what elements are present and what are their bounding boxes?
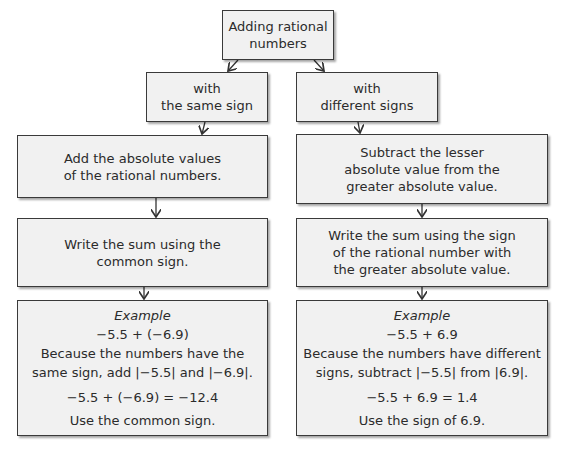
example-result: −5.5 + (−6.9) = −12.4	[67, 388, 218, 407]
step-line: Add the absolute values	[64, 150, 221, 167]
example-title: Example	[114, 306, 170, 325]
step-line: greater absolute value.	[346, 178, 498, 195]
step-line: of the rational number with	[333, 244, 512, 261]
example-explain: Because the numbers have the	[41, 344, 245, 363]
right-example-box: Example −5.5 + 6.9 Because the numbers h…	[296, 300, 548, 436]
step-line: the greater absolute value.	[334, 261, 511, 278]
branch-line: with	[193, 80, 221, 97]
step-line: Write the sum using the	[64, 236, 220, 253]
step-line: common sign.	[97, 253, 189, 270]
left-example-box: Example −5.5 + (−6.9) Because the number…	[17, 300, 268, 436]
example-note: Use the common sign.	[70, 411, 216, 430]
right-step2-box: Write the sum using the sign of the rati…	[296, 218, 548, 287]
step-line: Write the sum using the sign	[328, 227, 515, 244]
example-result: −5.5 + 6.9 = 1.4	[366, 388, 477, 407]
example-explain: same sign, add |−5.5| and |−6.9|.	[32, 363, 253, 382]
branch-line: the same sign	[161, 97, 253, 114]
root-line-2: numbers	[249, 35, 307, 52]
root-box: Adding rational numbers	[222, 10, 334, 60]
left-step1-box: Add the absolute values of the rational …	[17, 135, 268, 198]
branch-line: with	[353, 80, 381, 97]
example-explain: signs, subtract |−5.5| from |6.9|.	[316, 363, 528, 382]
example-explain: Because the numbers have different	[303, 344, 541, 363]
example-note: Use the sign of 6.9.	[359, 411, 485, 430]
step-line: Subtract the lesser	[360, 144, 484, 161]
example-title: Example	[394, 306, 450, 325]
branch-line: different signs	[321, 97, 414, 114]
example-expression: −5.5 + 6.9	[386, 325, 457, 344]
right-step1-box: Subtract the lesser absolute value from …	[296, 134, 548, 204]
same-sign-branch-box: with the same sign	[146, 72, 268, 122]
example-expression: −5.5 + (−6.9)	[96, 325, 188, 344]
left-step2-box: Write the sum using the common sign.	[17, 218, 268, 287]
step-line: absolute value from the	[344, 161, 499, 178]
root-line-1: Adding rational	[228, 18, 327, 35]
different-signs-branch-box: with different signs	[296, 72, 438, 122]
step-line: of the rational numbers.	[64, 167, 222, 184]
